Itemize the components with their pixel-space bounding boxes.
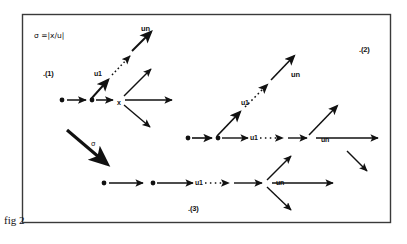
region-label-2: .(2) bbox=[359, 46, 369, 54]
region-label-3: .(3) bbox=[188, 205, 198, 213]
node-label-u1-region1: u1 bbox=[94, 70, 102, 77]
sigma-formula-label: σ =|x/u| bbox=[34, 31, 64, 40]
arrow-solid bbox=[347, 151, 367, 171]
node-label-un-region1: un bbox=[141, 25, 150, 33]
node-dot bbox=[216, 136, 221, 141]
sigma-arrow-label: σ bbox=[91, 141, 95, 148]
arrow-solid bbox=[124, 69, 151, 96]
region-3-graph bbox=[102, 151, 367, 210]
arrow-solid bbox=[124, 105, 150, 127]
node-label-x: x bbox=[117, 99, 121, 106]
region-1-graph bbox=[60, 32, 172, 127]
node-label-un-region2: un bbox=[321, 136, 329, 143]
arrow-solid bbox=[267, 187, 291, 210]
node-dot bbox=[151, 181, 156, 186]
node-dot bbox=[102, 181, 107, 186]
node-label-un-region2-diagonal: un bbox=[291, 71, 300, 79]
figure-container: σ =|x/u| .(1) .(2) .(3) x u1 un σ u1 un … bbox=[0, 0, 407, 244]
node-label-u1-region2: u1 bbox=[250, 134, 258, 141]
node-dot bbox=[186, 136, 191, 141]
arrow-solid bbox=[267, 156, 291, 180]
arrow-solid bbox=[91, 80, 108, 99]
node-label-u1-region2-diagonal: u1 bbox=[241, 99, 249, 106]
region-label-1: .(1) bbox=[43, 70, 53, 78]
node-dot bbox=[60, 98, 65, 103]
figure-caption: fig 2 bbox=[4, 214, 24, 226]
figure-border bbox=[23, 15, 391, 223]
arrow-solid bbox=[217, 112, 240, 136]
node-label-un-region3: un bbox=[276, 179, 284, 186]
node-label-u1-region3: u1 bbox=[195, 179, 203, 186]
arrow-solid bbox=[309, 106, 337, 135]
sigma-arrow bbox=[67, 130, 107, 164]
arrow-solid bbox=[132, 32, 151, 51]
arrow-dotted bbox=[112, 56, 130, 75]
region-2-graph bbox=[186, 56, 378, 140]
